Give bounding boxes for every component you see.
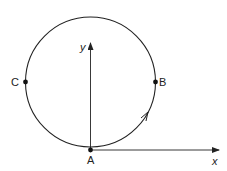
- point-b: [153, 80, 158, 85]
- label-b: B: [159, 76, 166, 88]
- label-x: x: [211, 155, 218, 167]
- label-y: y: [79, 41, 87, 53]
- circle-diagram: A B C y x: [0, 0, 227, 171]
- point-a: [88, 148, 93, 153]
- label-a: A: [87, 154, 95, 166]
- motion-arrow-icon: [141, 112, 148, 121]
- label-c: C: [11, 76, 19, 88]
- point-c: [23, 80, 28, 85]
